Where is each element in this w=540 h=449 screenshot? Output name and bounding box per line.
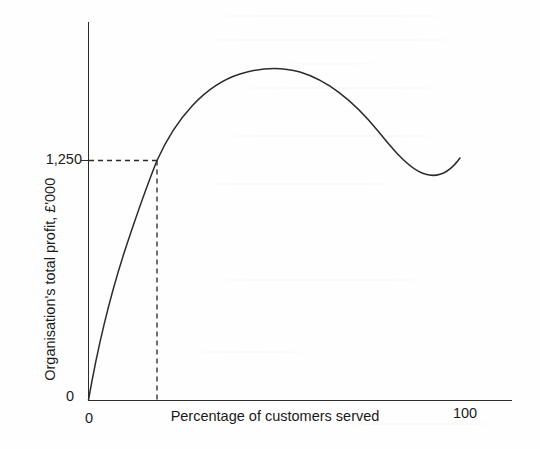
total-profit-curve	[89, 68, 461, 400]
x-axis-label-zero: 0	[81, 411, 97, 426]
chart-plot-area	[0, 0, 540, 449]
x-axis-label-hundred: 100	[444, 406, 486, 421]
x-axis-title: Percentage of customers served	[130, 409, 420, 424]
profit-curve-figure: 1,250 0 0 100 Organisation's total profi…	[0, 0, 540, 449]
y-axis-title: Organisation's total profit, £'000	[43, 149, 58, 409]
